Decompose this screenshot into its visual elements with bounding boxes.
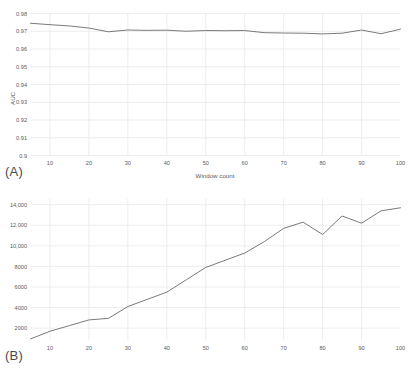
x-tick-label: 90	[358, 345, 364, 351]
x-tick-label: 10	[47, 160, 53, 166]
y-tick-label: 12,000	[10, 222, 27, 228]
y-tick-label: 0.93	[16, 99, 27, 105]
y-tick-label: 4000	[15, 305, 27, 311]
y-tick-label: 10,000	[10, 243, 27, 249]
y-tick-label: 8000	[15, 264, 27, 270]
x-tick-label: 30	[125, 345, 131, 351]
x-tick-label: 20	[86, 160, 92, 166]
y-tick-label: 0.97	[16, 28, 27, 34]
panel-label-a: (A)	[5, 164, 23, 179]
x-tick-label: 20	[86, 345, 92, 351]
x-tick-label: 80	[319, 160, 325, 166]
x-tick-label: 10	[47, 345, 53, 351]
y-tick-label: 2000	[15, 325, 27, 331]
panel-label-b: (B)	[5, 348, 23, 363]
x-tick-label: 40	[164, 160, 170, 166]
y-tick-label: 6000	[15, 284, 27, 290]
x-tick-label: 60	[242, 160, 248, 166]
y-tick-label: 0.9	[19, 153, 27, 159]
chart-panel-b: 200040006000800010,00012,00014,000102030…	[0, 185, 409, 370]
chart-panel-a: 0.90.910.920.930.940.950.960.970.9810203…	[0, 0, 409, 185]
y-tick-label: 0.91	[16, 135, 27, 141]
x-tick-label: 30	[125, 160, 131, 166]
x-tick-label: 60	[242, 345, 248, 351]
x-axis-title-a: Window count	[30, 172, 400, 179]
y-axis-title-a: AUC	[9, 92, 16, 105]
y-tick-label: 0.92	[16, 117, 27, 123]
figure-container: 0.90.910.920.930.940.950.960.970.9810203…	[0, 0, 409, 370]
x-tick-label: 90	[358, 160, 364, 166]
y-tick-label: 0.94	[16, 82, 27, 88]
data-series-line	[31, 208, 401, 339]
y-tick-label: 0.96	[16, 46, 27, 52]
x-tick-label: 50	[203, 160, 209, 166]
x-tick-label: 100	[396, 160, 405, 166]
x-tick-label: 50	[203, 345, 209, 351]
x-tick-label: 40	[164, 345, 170, 351]
x-tick-label: 100	[396, 345, 405, 351]
x-tick-label: 70	[281, 345, 287, 351]
x-tick-label: 80	[319, 345, 325, 351]
y-tick-label: 0.95	[16, 64, 27, 70]
auc-line-chart: 0.90.910.920.930.940.950.960.970.9810203…	[0, 0, 409, 185]
y-tick-label: 14,000	[10, 202, 27, 208]
time-line-chart: 200040006000800010,00012,00014,000102030…	[0, 185, 409, 370]
y-tick-label: 0.98	[16, 11, 27, 17]
x-tick-label: 70	[281, 160, 287, 166]
data-series-line	[31, 23, 401, 34]
